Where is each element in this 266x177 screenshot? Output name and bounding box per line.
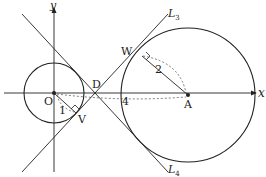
label-l4: L4 xyxy=(167,163,180,177)
label-distance: 4 xyxy=(122,95,129,108)
geometry-figure: x y O A D W V 1 2 4 L3 L4 xyxy=(0,0,266,177)
label-v: V xyxy=(77,113,87,126)
label-l3: L3 xyxy=(167,7,180,22)
point-a xyxy=(186,93,190,97)
label-w: W xyxy=(121,45,133,58)
label-radius-small: 1 xyxy=(59,104,66,117)
x-axis-label: x xyxy=(258,86,265,100)
right-angle-w xyxy=(146,52,150,60)
label-d: D xyxy=(92,78,101,91)
figure-canvas: x y O A D W V 1 2 4 L3 L4 xyxy=(0,0,266,177)
y-axis-label: y xyxy=(49,0,57,12)
label-o: O xyxy=(44,95,53,108)
label-a: A xyxy=(183,98,193,111)
radius-aw xyxy=(142,56,188,95)
label-radius-large: 2 xyxy=(155,63,162,76)
